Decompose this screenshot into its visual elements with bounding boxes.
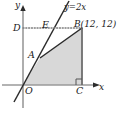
point-label-A: A <box>28 50 35 60</box>
point-label-E: E <box>42 20 49 30</box>
line-equation-label: y=2x <box>64 3 86 12</box>
point-label-B: B(12, 12) <box>74 20 116 29</box>
point-label-O: O <box>25 86 33 96</box>
figure-canvas <box>0 0 123 113</box>
y-axis-arrow-icon <box>20 5 25 11</box>
point-label-D: D <box>13 23 21 33</box>
geometry-figure: D E A O C B(12, 12) y=2x y x <box>0 0 123 113</box>
y-axis-label: y <box>15 1 20 10</box>
x-axis-label: x <box>99 83 104 92</box>
point-label-C: C <box>76 86 83 96</box>
